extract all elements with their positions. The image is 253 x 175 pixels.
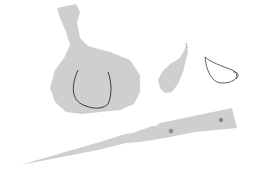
peeled-clove-outline-icon [205, 57, 238, 83]
garlic-clove-icon [158, 43, 188, 93]
illustration-canvas [0, 0, 253, 175]
garlic-bulb-icon [50, 4, 140, 114]
garlic-knife-illustration [0, 0, 253, 175]
knife-icon [20, 108, 237, 165]
